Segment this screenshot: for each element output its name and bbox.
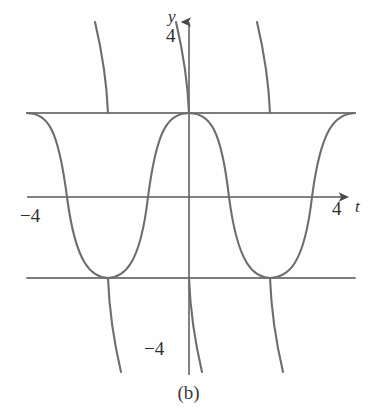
x-axis-tick-label-positive-four: 4 bbox=[332, 199, 342, 218]
curve-lower-tail-3 bbox=[270, 278, 283, 372]
axes-group bbox=[27, 22, 347, 375]
x-axis-tick-label-negative-four: −4 bbox=[20, 206, 40, 225]
curve-lower-tail-1 bbox=[108, 278, 121, 372]
curve-upper-tail-1 bbox=[95, 22, 108, 113]
plot-canvas bbox=[0, 0, 377, 420]
curve-branch-1 bbox=[27, 113, 108, 278]
t-axis-label: t bbox=[355, 198, 360, 215]
figure-caption: (b) bbox=[0, 382, 377, 404]
curve-upper-tail-2 bbox=[176, 22, 189, 113]
curve-lower-tail-2 bbox=[189, 278, 202, 372]
y-axis-tick-label-negative-four: −4 bbox=[144, 339, 164, 358]
curve-branch-2 bbox=[108, 113, 189, 278]
curve-branch-3 bbox=[189, 113, 270, 278]
y-axis-label: y bbox=[168, 8, 176, 25]
y-axis-tick-label-positive-four: 4 bbox=[166, 26, 176, 45]
asymptote-group bbox=[27, 113, 355, 278]
curve-branch-4 bbox=[270, 113, 355, 278]
figure-container: y t 4 −4 −4 4 (b) bbox=[0, 0, 377, 420]
curve-upper-tail-3 bbox=[257, 22, 270, 113]
